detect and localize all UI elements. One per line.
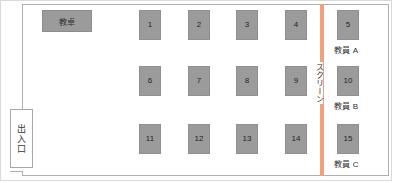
- projection-screen-label: スクリーン: [314, 62, 323, 104]
- seat-10[interactable]: 10: [337, 66, 359, 96]
- seat-14[interactable]: 14: [285, 124, 307, 154]
- seat-number-label: 14: [292, 135, 301, 143]
- seat-7[interactable]: 7: [188, 66, 210, 96]
- seat-number-label: 6: [148, 77, 152, 85]
- entrance-exit-door: 出入口: [10, 109, 33, 168]
- classroom-seating-diagram: 出入口 教卓 スクリーン 123456789101112131415教員 A教員…: [0, 0, 394, 183]
- room-wall-right: [388, 4, 389, 176]
- seat-number-label: 5: [346, 21, 350, 29]
- seat-number-label: 15: [344, 135, 353, 143]
- seat-number-label: 13: [243, 135, 252, 143]
- teacher-desk: 教卓: [42, 10, 92, 32]
- staff-caption-seat-10: 教員 B: [334, 100, 358, 111]
- seat-9[interactable]: 9: [285, 66, 307, 96]
- room-wall-left-upper: [22, 4, 23, 113]
- seat-number-label: 8: [245, 77, 249, 85]
- seat-number-label: 9: [294, 77, 298, 85]
- room-wall-top: [22, 4, 389, 5]
- seat-6[interactable]: 6: [139, 66, 161, 96]
- seat-2[interactable]: 2: [188, 10, 210, 40]
- seat-number-label: 3: [245, 21, 249, 29]
- seat-11[interactable]: 11: [139, 124, 161, 154]
- seat-13[interactable]: 13: [236, 124, 258, 154]
- seat-5[interactable]: 5: [337, 10, 359, 40]
- seat-number-label: 7: [197, 77, 201, 85]
- staff-caption-seat-15: 教員 C: [334, 158, 359, 169]
- seat-3[interactable]: 3: [236, 10, 258, 40]
- seat-number-label: 1: [148, 21, 152, 29]
- seat-4[interactable]: 4: [285, 10, 307, 40]
- room-wall-bottom: [22, 175, 389, 176]
- seat-number-label: 4: [294, 21, 298, 29]
- entrance-exit-label: 出入口: [16, 124, 28, 154]
- seat-15[interactable]: 15: [337, 124, 359, 154]
- teacher-desk-label: 教卓: [59, 16, 76, 27]
- seat-number-label: 2: [197, 21, 201, 29]
- seat-number-label: 12: [195, 135, 204, 143]
- staff-caption-seat-5: 教員 A: [334, 44, 358, 55]
- seat-1[interactable]: 1: [139, 10, 161, 40]
- seat-8[interactable]: 8: [236, 66, 258, 96]
- seat-number-label: 10: [344, 77, 353, 85]
- seat-number-label: 11: [146, 135, 154, 143]
- seat-12[interactable]: 12: [188, 124, 210, 154]
- door-connector-bottom: [10, 171, 23, 172]
